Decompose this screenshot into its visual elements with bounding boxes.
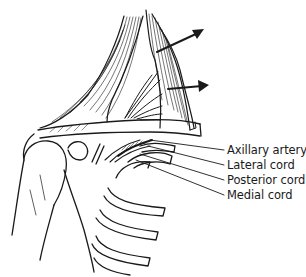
label-medial-cord: Medial cord bbox=[227, 189, 292, 201]
leader-medial-cord bbox=[136, 160, 224, 195]
label-lateral-cord: Lateral cord bbox=[227, 159, 295, 171]
plexus-branches bbox=[125, 72, 162, 120]
shoulder-anatomy-drawing bbox=[0, 0, 306, 277]
clavicle bbox=[38, 120, 201, 138]
leader-axillary-artery bbox=[150, 140, 224, 150]
retraction-arrow-upper bbox=[157, 29, 204, 52]
humerus bbox=[12, 134, 66, 260]
retraction-arrow-lower bbox=[168, 80, 209, 92]
scapula bbox=[64, 142, 104, 272]
ribs bbox=[92, 143, 175, 275]
leader-lines bbox=[136, 140, 224, 195]
pectoral-muscles bbox=[146, 10, 196, 130]
label-axillary-artery: Axillary artery bbox=[227, 144, 306, 156]
deltoid-muscle bbox=[40, 16, 143, 128]
label-posterior-cord: Posterior cord bbox=[227, 174, 305, 186]
